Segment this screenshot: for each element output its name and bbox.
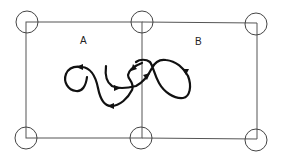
node-top-right xyxy=(245,13,267,35)
corner-nodes xyxy=(15,11,267,151)
arrow-right-icon xyxy=(114,85,121,91)
arrow-left-icon xyxy=(76,64,83,70)
region-label-a: A xyxy=(80,35,87,46)
two-cell-diagram: A B xyxy=(0,0,283,158)
trajectory xyxy=(65,60,190,106)
node-bottom-right xyxy=(245,129,267,151)
arrow-left-icon xyxy=(107,103,114,109)
trajectory-strand-1 xyxy=(65,63,142,106)
cell-frames xyxy=(26,22,257,139)
region-label-b: B xyxy=(195,36,202,47)
trajectory-strand-2 xyxy=(106,60,190,98)
